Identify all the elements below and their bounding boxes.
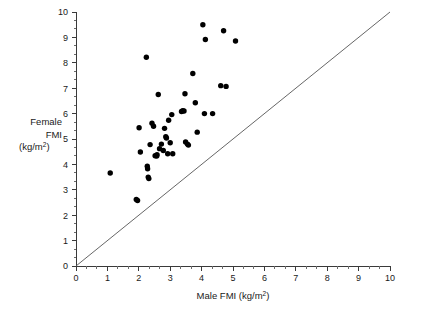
x-tick-label-7: 7: [293, 273, 298, 283]
y-axis-title-line-2: FMI: [46, 129, 62, 140]
y-tick-label-10: 10: [58, 7, 68, 17]
data-point: [223, 84, 228, 89]
line-of-identity: [76, 12, 390, 266]
x-tick-label-1: 1: [105, 273, 110, 283]
y-tick-label-9: 9: [63, 33, 68, 43]
data-point: [165, 151, 170, 156]
x-tick-label-9: 9: [356, 273, 361, 283]
data-point: [135, 198, 140, 203]
data-point: [170, 151, 175, 156]
data-point: [218, 83, 223, 88]
data-point: [145, 166, 150, 171]
x-tick-label-2: 2: [136, 273, 141, 283]
data-point: [202, 111, 207, 116]
scatter-chart-figure: 012345678910012345678910 Male FMI (kg/m2…: [0, 0, 425, 309]
y-axis-title-tail: ): [46, 141, 49, 152]
y-tick-label-6: 6: [63, 109, 68, 119]
data-point: [233, 38, 238, 43]
x-axis-title-tail: ): [266, 290, 269, 301]
plot-canvas: 012345678910012345678910 Male FMI (kg/m2…: [0, 0, 425, 309]
x-axis-title: Male FMI (kg/m2): [197, 290, 270, 301]
y-tick-label-7: 7: [63, 84, 68, 94]
data-point: [151, 124, 156, 129]
data-point: [210, 111, 215, 116]
x-axis-title-base: Male FMI (kg/m: [197, 290, 263, 301]
data-point: [136, 125, 141, 130]
data-point: [221, 28, 226, 33]
data-point: [146, 176, 151, 181]
line-of-identity: [76, 12, 390, 266]
data-point: [193, 100, 198, 105]
data-point: [161, 148, 166, 153]
y-axis-title-line-1: Female: [30, 116, 62, 127]
data-point: [168, 140, 173, 145]
y-tick-label-1: 1: [63, 236, 68, 246]
data-point: [108, 170, 113, 175]
y-axis-title-base: (kg/m: [19, 141, 43, 152]
data-point: [181, 108, 186, 113]
y-tick-label-0: 0: [63, 261, 68, 271]
data-point: [156, 92, 161, 97]
y-tick-label-5: 5: [63, 134, 68, 144]
data-point: [162, 126, 167, 131]
data-points-group: [108, 22, 239, 203]
x-tick-label-5: 5: [230, 273, 235, 283]
data-point: [147, 142, 152, 147]
y-axis-title-line-3: (kg/m2): [19, 141, 50, 152]
x-tick-label-3: 3: [168, 273, 173, 283]
data-point: [182, 91, 187, 96]
x-tick-label-0: 0: [73, 273, 78, 283]
data-point: [169, 112, 174, 117]
y-tick-label-8: 8: [63, 58, 68, 68]
data-point: [144, 55, 149, 60]
data-point: [200, 22, 205, 27]
x-tick-label-6: 6: [262, 273, 267, 283]
data-point: [195, 129, 200, 134]
x-tick-label-10: 10: [385, 273, 395, 283]
x-tick-label-8: 8: [325, 273, 330, 283]
data-point: [159, 141, 164, 146]
data-point: [138, 149, 143, 154]
data-point: [203, 37, 208, 42]
data-point: [166, 118, 171, 123]
y-tick-label-4: 4: [63, 160, 68, 170]
data-point: [190, 71, 195, 76]
y-tick-label-3: 3: [63, 185, 68, 195]
data-point: [186, 142, 191, 147]
x-tick-label-4: 4: [199, 273, 204, 283]
y-tick-label-2: 2: [63, 211, 68, 221]
data-point: [154, 152, 159, 157]
data-point: [164, 135, 169, 140]
